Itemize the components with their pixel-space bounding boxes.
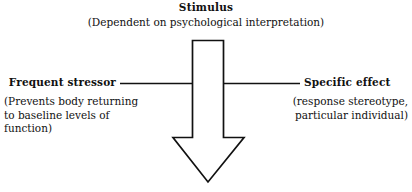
stimulus-title: Stimulus — [0, 1, 412, 14]
down-arrow-icon — [173, 41, 244, 183]
specific-effect-label: Specific effect — [304, 76, 412, 89]
frequent-stressor-note-line2: to baseline levels of function) — [4, 109, 154, 136]
stress-response-diagram: Stimulus (Dependent on psychological int… — [0, 0, 412, 192]
specific-effect-note-line2: particular individual) — [258, 109, 408, 123]
specific-effect-note-line1: (response stereotype, — [293, 95, 408, 107]
frequent-stressor-label: Frequent stressor — [0, 76, 116, 89]
frequent-stressor-note-line1: (Prevents body returning — [4, 95, 138, 107]
stimulus-subtitle: (Dependent on psychological interpretati… — [0, 16, 412, 29]
specific-effect-note: (response stereotype, particular individ… — [258, 95, 408, 122]
frequent-stressor-note: (Prevents body returning to baseline lev… — [4, 95, 154, 136]
